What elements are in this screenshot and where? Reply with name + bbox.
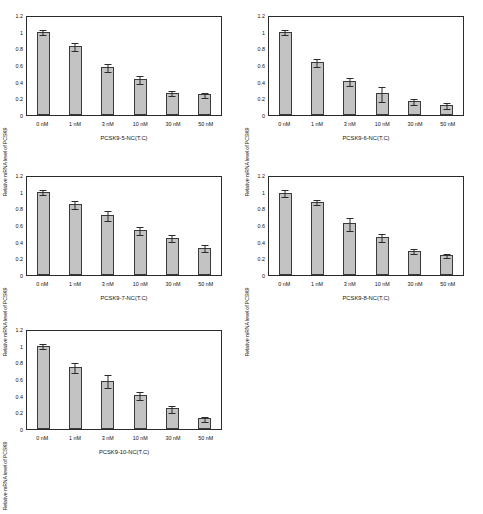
y-tick-label: 1.2 bbox=[258, 173, 266, 179]
x-tick-label: 10 nM bbox=[124, 121, 157, 127]
error-bar-cap-top bbox=[201, 417, 208, 418]
error-bar bbox=[317, 59, 318, 67]
y-tick-label: 0.4 bbox=[258, 240, 266, 246]
bar-pcsk9-5-3 bbox=[134, 79, 147, 115]
error-bar-cap-bottom bbox=[201, 422, 208, 423]
error-bar bbox=[140, 392, 141, 400]
bar-slot bbox=[366, 177, 398, 275]
error-bar-cap-top bbox=[282, 30, 289, 31]
x-tick-label: 30 nM bbox=[157, 435, 190, 441]
x-tick-label: 30 nM bbox=[157, 121, 190, 127]
error-bar bbox=[75, 201, 76, 209]
error-bar bbox=[107, 375, 108, 388]
y-tick-label: 0.2 bbox=[16, 410, 24, 416]
bar-slot bbox=[156, 177, 188, 275]
error-bar-cap-top bbox=[137, 392, 144, 393]
bar-series bbox=[269, 17, 463, 115]
y-tick-label: 0.6 bbox=[258, 223, 266, 229]
y-tick-label: 0 bbox=[20, 273, 23, 279]
bar-pcsk9-5-2 bbox=[101, 67, 114, 115]
error-bar-cap-top bbox=[314, 59, 321, 60]
error-bar-cap-bottom bbox=[72, 209, 79, 210]
bar-pcsk9-5-1 bbox=[69, 46, 82, 115]
y-tick-label: 1 bbox=[262, 190, 265, 196]
bar-pcsk9-6-0 bbox=[279, 32, 292, 115]
error-bar-cap-bottom bbox=[314, 205, 321, 206]
error-bar-cap-bottom bbox=[104, 221, 111, 222]
bar-slot bbox=[334, 17, 366, 115]
error-bar-cap-bottom bbox=[314, 67, 321, 68]
y-tick-label: 0.8 bbox=[258, 46, 266, 52]
y-tick-label: 0 bbox=[262, 273, 265, 279]
x-tick-label: 3 nM bbox=[333, 121, 366, 127]
y-tick-label: 0 bbox=[262, 113, 265, 119]
bar-slot bbox=[189, 177, 221, 275]
y-tick-label: 0.2 bbox=[258, 256, 266, 262]
bar-slot bbox=[189, 331, 221, 429]
bar-pcsk9-6-2 bbox=[343, 81, 356, 115]
plot-area bbox=[26, 16, 222, 116]
error-bar-cap-top bbox=[72, 363, 79, 364]
bar-pcsk9-5-4 bbox=[166, 93, 179, 116]
x-tick-label: 50 nM bbox=[189, 435, 222, 441]
error-bar bbox=[107, 211, 108, 221]
x-tick-label: 1 nM bbox=[301, 281, 334, 287]
x-axis-label: PCSK9-5-NC(T.C) bbox=[26, 135, 222, 141]
x-axis-label: PCSK9-10-NC(T.C) bbox=[26, 449, 222, 455]
y-tick-label: 1 bbox=[20, 30, 23, 36]
bar-slot bbox=[398, 177, 430, 275]
bar-slot bbox=[124, 331, 156, 429]
bar-slot bbox=[431, 177, 463, 275]
chart-panel-pcsk9-10: Relative mRNA level of PCSK900.20.40.60.… bbox=[0, 320, 226, 460]
x-tick-label: 10 nM bbox=[366, 281, 399, 287]
y-tick-label: 0.8 bbox=[258, 206, 266, 212]
error-bar-cap-top bbox=[72, 43, 79, 44]
x-tick-label: 1 nM bbox=[59, 281, 92, 287]
bar-pcsk9-6-5 bbox=[440, 105, 453, 115]
error-bar bbox=[382, 87, 383, 102]
y-tick-label: 0.4 bbox=[258, 80, 266, 86]
error-bar-cap-bottom bbox=[282, 35, 289, 36]
x-axis-label: PCSK9-8-NC(T.C) bbox=[268, 295, 464, 301]
x-axis-label: PCSK9-7-NC(T.C) bbox=[26, 295, 222, 301]
error-bar-cap-bottom bbox=[137, 235, 144, 236]
bar-slot bbox=[156, 331, 188, 429]
plot-area bbox=[268, 16, 464, 116]
error-bar-cap-bottom bbox=[282, 197, 289, 198]
x-tick-label: 3 nM bbox=[91, 281, 124, 287]
y-tick-label: 0.8 bbox=[16, 360, 24, 366]
error-bar-cap-bottom bbox=[411, 105, 418, 106]
x-tick-label: 3 nM bbox=[333, 281, 366, 287]
bar-slot bbox=[366, 17, 398, 115]
bar-pcsk9-7-3 bbox=[134, 230, 147, 275]
error-bar bbox=[75, 363, 76, 373]
bar-pcsk9-8-3 bbox=[376, 237, 389, 275]
x-tick-label: 1 nM bbox=[301, 121, 334, 127]
bar-pcsk9-7-0 bbox=[37, 192, 50, 275]
bar-slot bbox=[27, 17, 59, 115]
y-tick-label: 0 bbox=[20, 427, 23, 433]
y-tick-label: 1.2 bbox=[16, 173, 24, 179]
bar-pcsk9-8-0 bbox=[279, 193, 292, 276]
error-bar-cap-bottom bbox=[379, 102, 386, 103]
error-bar-cap-top bbox=[201, 245, 208, 246]
error-bar-cap-bottom bbox=[72, 373, 79, 374]
bar-slot bbox=[189, 17, 221, 115]
bar-slot bbox=[156, 17, 188, 115]
bar-pcsk9-5-0 bbox=[37, 32, 50, 115]
x-tick-label: 30 nM bbox=[399, 121, 432, 127]
error-bar-cap-bottom bbox=[346, 231, 353, 232]
error-bar-cap-top bbox=[169, 235, 176, 236]
bar-slot bbox=[124, 17, 156, 115]
y-tick-label: 0.8 bbox=[16, 206, 24, 212]
error-bar-cap-bottom bbox=[169, 413, 176, 414]
x-tick-label: 10 nM bbox=[124, 281, 157, 287]
bar-slot bbox=[301, 177, 333, 275]
y-axis-ticks: 00.20.40.60.811.2 bbox=[8, 176, 24, 276]
x-tick-label: 50 nM bbox=[189, 281, 222, 287]
y-axis-ticks: 00.20.40.60.811.2 bbox=[8, 330, 24, 430]
plot-area bbox=[26, 176, 222, 276]
x-tick-label: 30 nM bbox=[157, 281, 190, 287]
bar-pcsk9-10-2 bbox=[101, 381, 114, 429]
chart-panel-pcsk9-7: Relative mRNA level of PCSK900.20.40.60.… bbox=[0, 166, 226, 306]
